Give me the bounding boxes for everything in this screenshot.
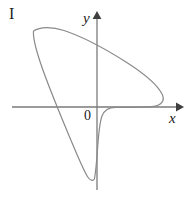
x-axis-label: x	[169, 111, 176, 126]
parametric-curve	[33, 28, 163, 181]
figure-canvas	[0, 0, 191, 198]
x-axis-arrow-icon	[176, 103, 184, 112]
y-axis-arrow-icon	[93, 11, 102, 19]
figure-label-roman: I	[9, 6, 14, 22]
y-axis-label: y	[83, 11, 90, 26]
math-figure: I y x 0	[0, 0, 191, 198]
origin-label: 0	[84, 109, 91, 123]
